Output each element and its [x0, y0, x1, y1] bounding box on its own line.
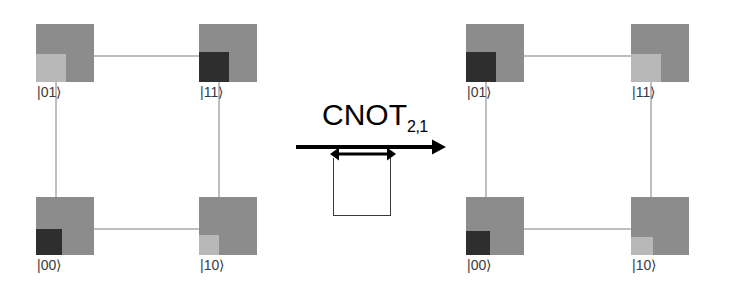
amplitude-patch [36, 229, 62, 255]
ket-label-01: |01⟩ [467, 84, 491, 100]
operator-subscript: 2,1 [407, 118, 428, 135]
open-square-icon [333, 158, 391, 216]
cnot-operator-group: CNOT2,1 [296, 100, 446, 220]
ket-label-00: |00⟩ [467, 257, 491, 273]
vertex-11: |11⟩ [199, 24, 257, 82]
amplitude-patch [466, 231, 490, 255]
lattice-edge-bottom [78, 228, 218, 230]
vertex-01: |01⟩ [466, 24, 524, 82]
amplitude-patch [631, 237, 653, 255]
ket-label-10: |10⟩ [200, 257, 224, 273]
ket-label-01: |01⟩ [37, 84, 61, 100]
amplitude-patch [199, 52, 229, 82]
initial-state-lattice: |01⟩ |11⟩ |00⟩ |10⟩ [0, 0, 300, 293]
vertex-10: |10⟩ [199, 197, 257, 255]
vertex-11: |11⟩ [631, 24, 689, 82]
operator-name: CNOT [322, 98, 407, 131]
ket-label-10: |10⟩ [632, 257, 656, 273]
ket-label-11: |11⟩ [632, 84, 655, 100]
cnot-lattice-figure: |01⟩ |11⟩ |00⟩ |10⟩ CNOT2,1 [0, 0, 732, 293]
amplitude-patch [466, 52, 496, 82]
amplitude-patch [199, 235, 219, 255]
lattice-edge-top [78, 55, 218, 57]
vertex-00: |00⟩ [36, 197, 94, 255]
final-state-lattice: |01⟩ |11⟩ |00⟩ |10⟩ [430, 0, 730, 293]
ket-label-00: |00⟩ [37, 257, 61, 273]
ket-label-11: |11⟩ [200, 84, 223, 100]
vertex-01: |01⟩ [36, 24, 94, 82]
operator-label: CNOT2,1 [322, 100, 428, 135]
vertex-10: |10⟩ [631, 197, 689, 255]
lattice-edge-top [508, 55, 650, 57]
amplitude-patch [631, 54, 661, 82]
lattice-edge-bottom [508, 228, 650, 230]
amplitude-patch [36, 54, 66, 82]
vertex-00: |00⟩ [466, 197, 524, 255]
